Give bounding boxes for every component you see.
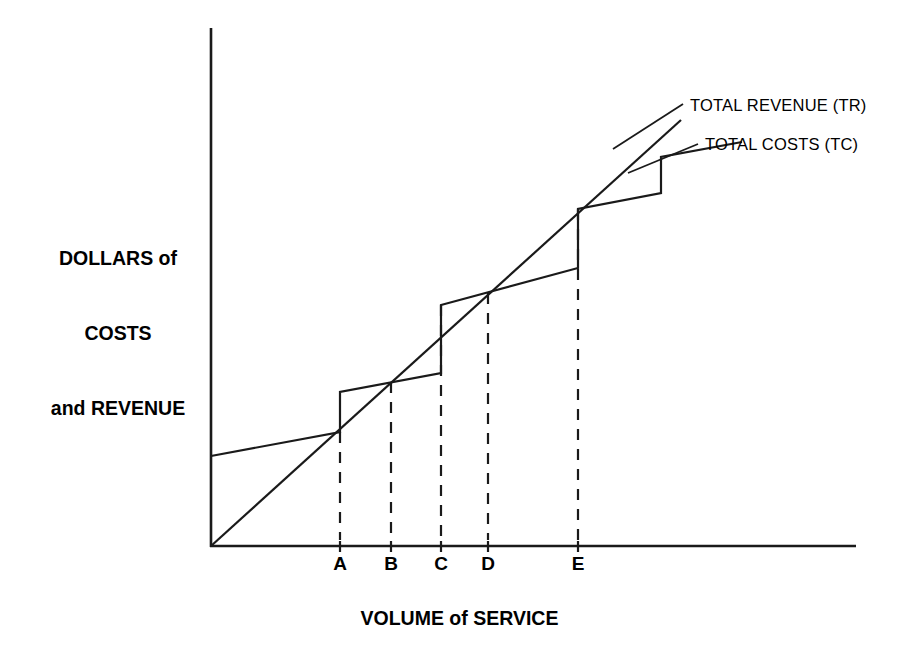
break-even-chart: A B C D E TOTAL REVENUE (TR) TOTAL COSTS…: [0, 0, 919, 651]
total-revenue-label: TOTAL REVENUE (TR): [690, 96, 867, 114]
tick-label-d: D: [481, 553, 495, 574]
total-costs-label: TOTAL COSTS (TC): [705, 135, 858, 153]
tick-label-e: E: [572, 553, 585, 574]
total-revenue-line: [211, 120, 681, 546]
tick-label-b: B: [384, 553, 398, 574]
y-axis-title-line-3: and REVENUE: [38, 396, 198, 421]
y-axis-title: DOLLARS of COSTS and REVENUE: [38, 196, 198, 471]
total-costs-line: [211, 142, 742, 456]
tick-label-a: A: [333, 553, 347, 574]
y-axis-title-line-1: DOLLARS of: [38, 246, 198, 271]
x-axis-title: VOLUME of SERVICE: [0, 607, 919, 630]
y-axis-title-line-2: COSTS: [38, 321, 198, 346]
tick-label-c: C: [434, 553, 448, 574]
